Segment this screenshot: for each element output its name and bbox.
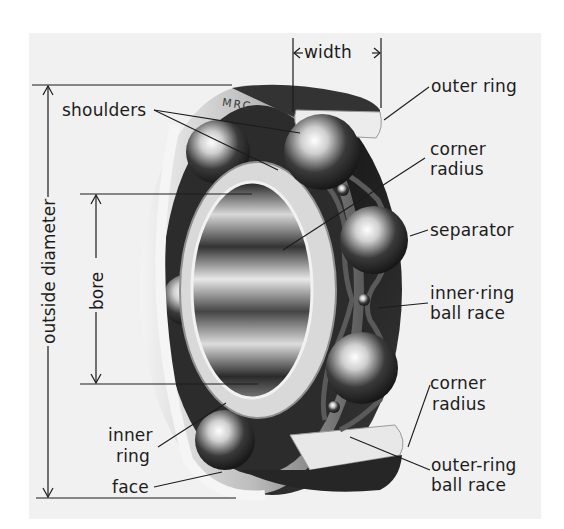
corner-radius-top-label-line1: corner <box>430 139 486 159</box>
inner-ring-ball-race-label-line2: ball race <box>430 303 505 323</box>
width-label: width <box>304 42 352 62</box>
corner-radius-bottom-label-line1: corner <box>430 373 486 393</box>
outer-ring-ball-race-label-line1: outer-ring <box>431 455 517 475</box>
corner-radius-top-label-line2: radius <box>430 159 484 179</box>
face-label: face <box>112 477 149 497</box>
outer-ring-label: outer ring <box>431 76 517 96</box>
outside-diameter-label: outside diameter <box>39 197 59 346</box>
corner-radius-bottom-label-line2: radius <box>432 394 486 414</box>
inner-ring <box>180 162 336 418</box>
outer-ring-ball-race-label-line2: ball race <box>431 475 506 495</box>
shoulders-label: shoulders <box>62 100 146 120</box>
inner-ring-label-line1: inner <box>108 425 153 445</box>
inner-ring-label-line2: ring <box>116 446 150 466</box>
bore-label: bore <box>87 270 107 312</box>
inner-ring-ball-race-label-line1: inner·ring <box>430 283 514 303</box>
separator-label: separator <box>430 220 514 240</box>
